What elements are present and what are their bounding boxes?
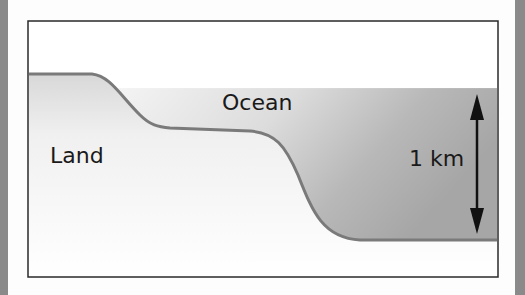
land-label: Land (50, 145, 104, 167)
ocean-label: Ocean (222, 92, 292, 114)
depth-label: 1 km (409, 148, 464, 170)
